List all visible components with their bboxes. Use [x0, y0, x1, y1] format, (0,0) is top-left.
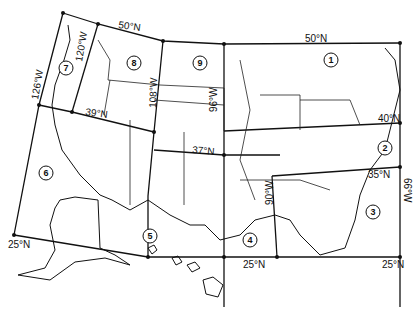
region-number: 4 — [247, 235, 252, 245]
latitude-label: 40°N — [378, 113, 400, 124]
state-outlines — [52, 25, 400, 255]
longitude-label: 90°W — [264, 180, 275, 205]
region-number: 2 — [382, 143, 387, 153]
lat-long-grid — [12, 11, 402, 307]
hawaii-islands — [148, 245, 223, 297]
latitude-label: 50°N — [118, 19, 142, 33]
region-number: 6 — [43, 168, 48, 178]
region-number: 9 — [197, 58, 202, 68]
region-number: 5 — [147, 231, 152, 241]
longitude-label: 120°W — [73, 30, 89, 62]
region-number: 1 — [328, 55, 333, 65]
map-canvas: 50°N50°N39°N37°N40°N35°N25°N25°N25°N126°… — [0, 0, 417, 310]
latitude-label: 50°N — [305, 33, 327, 44]
longitude-label: 66°W — [402, 178, 413, 203]
region-number: 7 — [63, 63, 68, 73]
longitude-label: 126°W — [29, 68, 45, 100]
longitude-label: 96°W — [208, 87, 219, 112]
us-region-map: 50°N50°N39°N37°N40°N35°N25°N25°N25°N126°… — [0, 0, 417, 310]
region-number: 3 — [370, 207, 375, 217]
region-number: 8 — [131, 58, 136, 68]
latitude-label: 35°N — [368, 169, 390, 180]
latitude-label: 37°N — [192, 144, 215, 157]
latitude-label: 25°N — [8, 239, 30, 250]
latitude-label: 25°N — [382, 259, 404, 270]
latitude-label: 39°N — [85, 106, 109, 120]
longitude-label: 108°W — [147, 77, 159, 108]
latitude-label: 25°N — [243, 259, 265, 270]
